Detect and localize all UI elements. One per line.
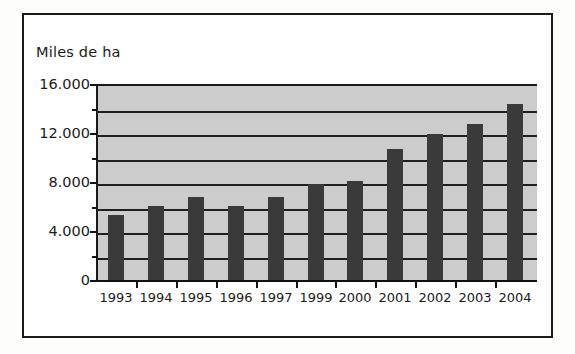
bar-1995 (188, 197, 204, 280)
bar-1993 (108, 215, 124, 280)
x-axis-label-2001: 2001 (375, 290, 415, 306)
bar-2000 (347, 181, 363, 280)
y-axis-tick-minor (92, 109, 97, 111)
bar-2004 (507, 104, 523, 280)
y-axis-tick-minor (92, 256, 97, 258)
bar-2002 (427, 134, 443, 280)
bar-1997 (268, 197, 284, 280)
bars-layer (96, 84, 535, 280)
y-axis-tick (90, 280, 97, 282)
bar-2003 (467, 124, 483, 280)
x-axis-tick (375, 282, 377, 288)
y-axis-tick-minor (92, 158, 97, 160)
y-axis-tick (90, 231, 97, 233)
x-axis-label-2003: 2003 (455, 290, 495, 306)
x-axis-label-1994: 1994 (136, 290, 176, 306)
x-axis-tick (136, 282, 138, 288)
x-axis-label-2000: 2000 (335, 290, 375, 306)
x-axis-tick (176, 282, 178, 288)
x-axis-label-1995: 1995 (176, 290, 216, 306)
y-axis-tick (90, 84, 97, 86)
x-axis-tick (256, 282, 258, 288)
x-axis-label-2002: 2002 (415, 290, 455, 306)
bar-1999 (308, 184, 324, 280)
x-axis-label-1993: 1993 (96, 290, 136, 306)
x-axis-label-1997: 1997 (256, 290, 296, 306)
x-axis-labels: 1993199419951996199719992000200120022003… (96, 290, 535, 312)
y-axis-label: 12.000 (39, 126, 90, 141)
y-axis-label: 4.000 (48, 224, 90, 239)
x-axis-tick (495, 282, 497, 288)
chart-page: Miles de ha 04.0008.00012.00016.000 1993… (0, 0, 575, 354)
x-axis-tick (296, 282, 298, 288)
x-axis-label-1996: 1996 (216, 290, 256, 306)
y-axis-tick (90, 133, 97, 135)
bar-1994 (148, 206, 164, 280)
y-axis-labels: 04.0008.00012.00016.000 (20, 0, 90, 354)
bar-2001 (387, 149, 403, 280)
y-axis-label: 8.000 (48, 175, 90, 190)
y-axis-label: 16.000 (39, 77, 90, 92)
y-axis-tick (90, 182, 97, 184)
x-axis-tick (216, 282, 218, 288)
bar-1996 (228, 206, 244, 280)
y-axis-tick-minor (92, 207, 97, 209)
x-axis-tick (335, 282, 337, 288)
x-axis-line (96, 280, 537, 282)
y-axis-label: 0 (81, 273, 90, 288)
x-axis-tick (415, 282, 417, 288)
x-axis-label-2004: 2004 (495, 290, 535, 306)
x-axis-label-1999: 1999 (296, 290, 336, 306)
x-axis-tick (455, 282, 457, 288)
